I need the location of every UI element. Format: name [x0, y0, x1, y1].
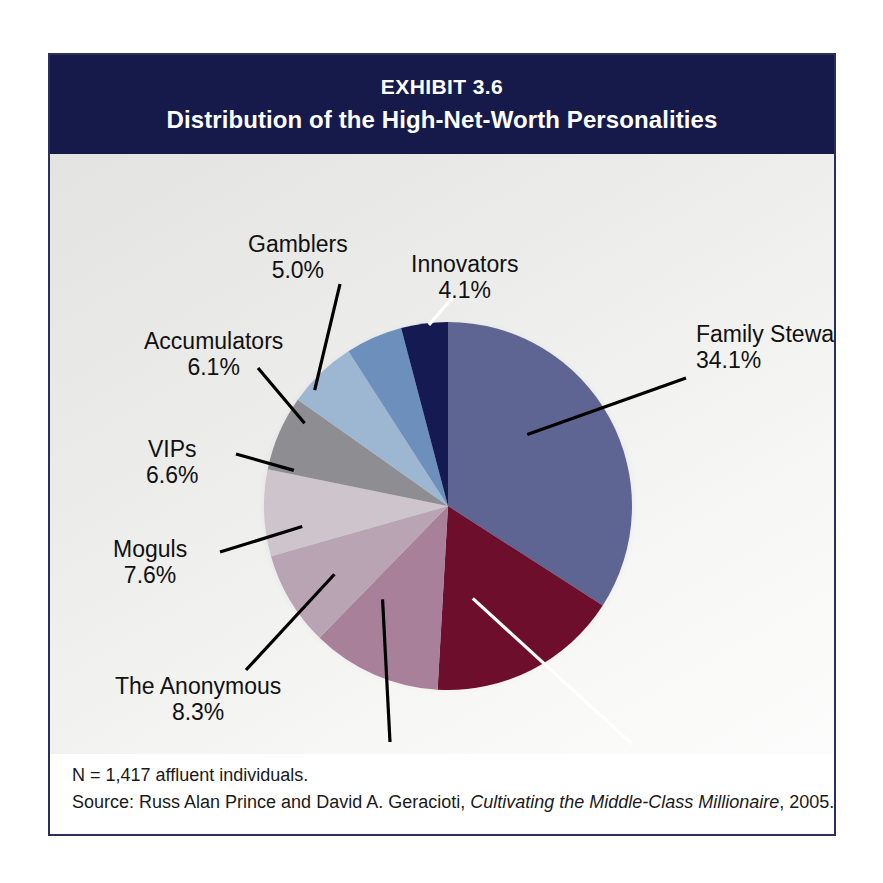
pie-label-accumulators: Accumulators 6.1%: [144, 329, 283, 381]
footnote-source-suffix: , 2005.: [779, 792, 834, 812]
pie-label-name: Moguls: [113, 537, 187, 563]
footnote-area: N = 1,417 affluent individuals. Source: …: [50, 754, 834, 834]
pie-label-name: VIPs: [146, 437, 198, 463]
pie-label-value: 6.1%: [144, 355, 283, 381]
footnote-sample-size: N = 1,417 affluent individuals.: [72, 762, 812, 789]
pie-chart-plot-area: Family Stewards 34.1% Independents 16.8%…: [50, 154, 834, 804]
footnote-source: Source: Russ Alan Prince and David A. Ge…: [72, 789, 812, 816]
pie-label-vips: VIPs 6.6%: [146, 437, 198, 489]
exhibit-frame: EXHIBIT 3.6 Distribution of the High-Net…: [48, 53, 836, 836]
pie-label-name: Gamblers: [248, 232, 348, 258]
exhibit-title: Distribution of the High-Net-Worth Perso…: [166, 104, 717, 135]
pie-label-family-stewards: Family Stewards 34.1%: [696, 322, 834, 374]
pie-label-value: 7.6%: [113, 563, 187, 589]
pie-label-gamblers: Gamblers 5.0%: [248, 232, 348, 284]
footnote-source-prefix: Source: Russ Alan Prince and David A. Ge…: [72, 792, 470, 812]
pie-label-name: Family Stewards: [696, 322, 834, 348]
exhibit-number: EXHIBIT 3.6: [381, 74, 503, 100]
pie-label-the-anonymous: The Anonymous 8.3%: [115, 674, 281, 726]
pie-label-value: 8.3%: [115, 700, 281, 726]
pie-label-name: The Anonymous: [115, 674, 281, 700]
pie-label-value: 34.1%: [696, 348, 834, 374]
footnote-source-title: Cultivating the Middle-Class Millionaire: [470, 792, 779, 812]
pie-label-value: 4.1%: [411, 278, 518, 304]
pie-label-moguls: Moguls 7.6%: [113, 537, 187, 589]
pie-label-value: 5.0%: [248, 258, 348, 284]
pie-label-name: Innovators: [411, 252, 518, 278]
pie-label-innovators: Innovators 4.1%: [411, 252, 518, 304]
exhibit-header: EXHIBIT 3.6 Distribution of the High-Net…: [50, 55, 834, 154]
pie-label-value: 6.6%: [146, 463, 198, 489]
pie-label-name: Accumulators: [144, 329, 283, 355]
